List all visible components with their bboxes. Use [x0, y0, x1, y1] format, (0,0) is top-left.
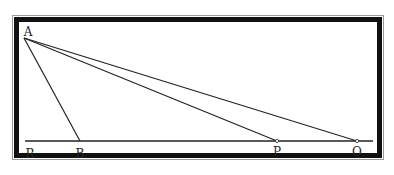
- segment-AP: [24, 38, 277, 141]
- segment-AQ: [24, 38, 357, 141]
- point-Q-marker: [355, 139, 358, 142]
- label-R: R: [25, 147, 35, 161]
- point-P-marker: [275, 139, 278, 142]
- label-A: A: [23, 25, 33, 39]
- label-B: B: [76, 147, 85, 161]
- label-Q: Q: [352, 145, 362, 159]
- geometry-diagram: A R B P Q: [0, 0, 394, 175]
- label-P: P: [273, 145, 281, 159]
- segment-AB: [24, 38, 80, 141]
